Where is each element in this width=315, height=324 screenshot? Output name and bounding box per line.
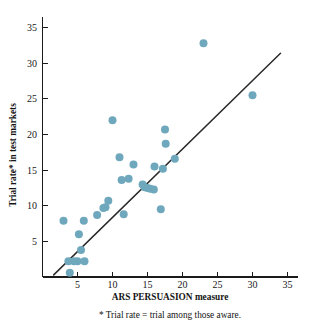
scatter-plot-figure: 5101520253035 5101520253035 ARS PERSUASI… xyxy=(0,0,315,324)
data-point xyxy=(161,126,169,134)
data-point xyxy=(118,176,126,184)
data-point xyxy=(162,140,170,148)
data-point xyxy=(66,269,74,277)
x-tick-label: 20 xyxy=(178,279,188,290)
data-point xyxy=(151,163,159,171)
data-point xyxy=(75,230,83,238)
x-tick-label: 35 xyxy=(283,279,293,290)
data-point xyxy=(171,155,179,163)
x-tick-label: 15 xyxy=(143,279,153,290)
x-axis-title: ARS PERSUASION measure xyxy=(112,292,229,302)
x-axis-ticks: 5101520253035 xyxy=(75,272,293,291)
x-tick-label: 30 xyxy=(248,279,258,290)
data-point xyxy=(104,197,112,205)
data-point xyxy=(116,153,124,161)
data-point xyxy=(77,246,85,254)
data-point xyxy=(150,185,158,193)
regression-line xyxy=(54,53,281,275)
y-tick-label: 15 xyxy=(27,165,37,176)
data-point xyxy=(125,175,133,183)
data-point xyxy=(159,165,167,173)
x-tick-label: 25 xyxy=(213,279,223,290)
data-point xyxy=(249,91,257,99)
y-tick-label: 5 xyxy=(32,236,37,247)
x-tick-label: 5 xyxy=(75,279,80,290)
y-tick-label: 10 xyxy=(27,200,37,211)
x-tick-label: 10 xyxy=(108,279,118,290)
data-point xyxy=(60,217,68,225)
data-point xyxy=(74,257,82,265)
y-tick-label: 30 xyxy=(27,58,37,69)
y-tick-label: 35 xyxy=(27,22,37,33)
data-point xyxy=(120,210,128,218)
data-point xyxy=(109,116,117,124)
data-point xyxy=(157,205,165,213)
y-axis-title: Trial rate* in test markets xyxy=(8,103,18,207)
data-point xyxy=(130,160,138,168)
chart-footnote: * Trial rate = trial among those aware. xyxy=(99,310,241,320)
data-point xyxy=(93,211,101,219)
data-point xyxy=(81,257,89,265)
y-tick-label: 20 xyxy=(27,129,37,140)
chart-canvas: 5101520253035 5101520253035 ARS PERSUASI… xyxy=(0,0,315,324)
data-point xyxy=(200,39,208,47)
y-axis-ticks: 5101520253035 xyxy=(27,22,48,247)
data-point xyxy=(80,217,88,225)
y-tick-label: 25 xyxy=(27,93,37,104)
